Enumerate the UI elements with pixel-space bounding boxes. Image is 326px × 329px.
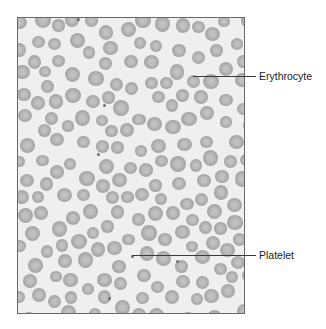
erythrocyte-cell <box>40 177 53 191</box>
blood-smear-figure: Erythrocyte Platelet <box>0 0 326 329</box>
erythrocyte-cell <box>85 17 99 27</box>
erythrocyte-cell <box>87 227 99 239</box>
erythrocyte-cell <box>151 281 164 294</box>
erythrocyte-cell <box>112 173 126 187</box>
erythrocyte-cell <box>71 234 87 249</box>
erythrocyte-cell <box>203 150 218 165</box>
erythrocyte-cell <box>137 269 150 282</box>
erythrocyte-cell <box>96 140 110 152</box>
erythrocyte-cell <box>195 193 208 206</box>
erythrocyte-cell <box>82 283 94 295</box>
erythrocyte-cell <box>237 55 245 68</box>
erythrocyte-cell <box>135 145 147 157</box>
erythrocyte-cell <box>50 133 64 147</box>
erythrocyte-cell <box>237 304 245 314</box>
erythrocyte-cell <box>105 125 117 137</box>
erythrocyte-cell <box>220 116 233 127</box>
erythrocyte-cell <box>214 222 227 234</box>
erythrocyte-cell <box>112 260 126 273</box>
erythrocyte-cell <box>165 120 181 135</box>
erythrocyte-cell <box>65 88 81 104</box>
erythrocyte-cell <box>134 37 146 48</box>
erythrocyte-cell <box>25 226 41 242</box>
erythrocyte-cell <box>227 215 242 230</box>
erythrocyte-label: Erythrocyte <box>259 70 312 82</box>
erythrocyte-cell <box>176 18 190 32</box>
erythrocyte-cell <box>102 91 115 104</box>
erythrocyte-cell <box>206 236 221 250</box>
erythrocyte-cell <box>124 162 137 174</box>
erythrocyte-cell <box>39 66 51 77</box>
erythrocyte-cell <box>31 96 46 110</box>
erythrocyte-cell <box>49 94 64 109</box>
erythrocyte-cell <box>152 91 164 103</box>
erythrocyte-cell <box>106 191 119 203</box>
blood-smear-micrograph <box>17 17 245 314</box>
erythrocyte-cell <box>207 204 222 220</box>
erythrocyte-cell <box>219 94 233 106</box>
erythrocyte-cell <box>124 55 137 68</box>
erythrocyte-cell <box>75 110 90 126</box>
erythrocyte-cell <box>132 213 146 226</box>
erythrocyte-cell <box>17 65 30 79</box>
erythrocyte-cell <box>166 206 180 220</box>
erythrocyte-cell <box>149 179 161 192</box>
erythrocyte-cell <box>122 234 134 246</box>
platelet-dot <box>97 153 100 156</box>
erythrocyte-cell <box>36 155 48 166</box>
erythrocyte-cell <box>32 36 45 48</box>
erythrocyte-cell <box>229 135 244 149</box>
erythrocyte-cell <box>192 51 206 65</box>
erythrocyte-cell <box>155 155 168 167</box>
erythrocyte-cell <box>219 62 233 76</box>
erythrocyte-cell <box>101 220 113 232</box>
erythrocyte-cell <box>210 44 223 57</box>
erythrocyte-cell <box>52 19 64 31</box>
erythrocyte-cell <box>155 193 167 205</box>
erythrocyte-cell <box>237 103 245 115</box>
erythrocyte-cell <box>192 21 205 33</box>
erythrocyte-cell <box>115 300 131 314</box>
erythrocyte-cell <box>240 154 245 166</box>
erythrocyte-cell <box>78 252 93 267</box>
erythrocyte-cell <box>17 17 27 29</box>
erythrocyte-cell <box>170 64 185 79</box>
erythrocyte-cell <box>200 136 213 148</box>
erythrocyte-cell <box>101 313 115 314</box>
erythrocyte-cell <box>190 159 203 172</box>
erythrocyte-cell <box>70 33 85 48</box>
erythrocyte-cell <box>121 191 133 202</box>
erythrocyte-cell <box>140 246 155 261</box>
erythrocyte-cell <box>77 136 89 149</box>
erythrocyte-cell <box>186 214 199 226</box>
erythrocyte-cell <box>18 208 33 223</box>
platelet-dot <box>77 18 80 21</box>
erythrocyte-leader-line <box>193 76 256 77</box>
erythrocyte-cell <box>56 239 69 252</box>
erythrocyte-cell <box>172 44 186 57</box>
erythrocyte-cell <box>18 109 32 122</box>
erythrocyte-cell <box>52 55 64 66</box>
erythrocyte-cell <box>50 165 64 179</box>
erythrocyte-cell <box>135 17 150 28</box>
erythrocyte-cell <box>89 308 102 314</box>
erythrocyte-cell <box>180 312 196 314</box>
erythrocyte-cell <box>149 308 164 314</box>
erythrocyte-cell <box>176 275 190 289</box>
erythrocyte-cell <box>113 100 129 116</box>
erythrocyte-cell <box>218 17 230 27</box>
erythrocyte-cell <box>28 55 41 68</box>
erythrocyte-cell <box>103 41 117 54</box>
erythrocyte-cell <box>225 313 237 314</box>
erythrocyte-cell <box>132 308 146 314</box>
erythrocyte-cell <box>194 90 208 104</box>
erythrocyte-cell <box>61 305 76 314</box>
erythrocyte-cell <box>180 198 194 211</box>
erythrocyte-cell <box>96 179 109 192</box>
erythrocyte-cell <box>132 114 145 126</box>
erythrocyte-cell <box>41 245 53 258</box>
erythrocyte-cell <box>62 120 75 132</box>
erythrocyte-cell <box>97 273 112 287</box>
erythrocyte-cell <box>147 117 162 131</box>
erythrocyte-cell <box>235 171 245 186</box>
